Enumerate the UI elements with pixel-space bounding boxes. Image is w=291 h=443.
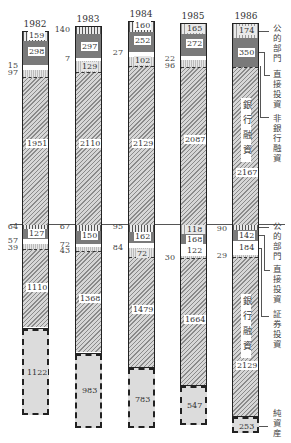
- value-public-lower: 95: [103, 222, 123, 231]
- value-bank-lower: 1664: [184, 315, 206, 324]
- value-net-assets: 983: [81, 386, 98, 395]
- value-direct-lower: 142: [238, 231, 255, 240]
- value-direct-upper: 350: [238, 48, 255, 57]
- value-public-lower: 67: [50, 222, 70, 231]
- bank-loans-inner-label-upper: 銀行融資: [241, 98, 251, 162]
- value-public-lower: 118: [186, 225, 203, 234]
- year-label-1986: 1986: [231, 11, 261, 21]
- bar-1983-upper: [75, 26, 102, 354]
- value-nonbank-light: 129: [81, 62, 98, 71]
- legend-direct-investment-upper: 直接投資: [270, 70, 282, 110]
- value-public-upper: 174: [238, 26, 255, 35]
- seg-bank-upper: [76, 72, 101, 225]
- leader-portfolio-v: [261, 248, 262, 316]
- legend-direct-investment-lower: 直接投資: [270, 265, 282, 305]
- value-bank-lower: 2129: [236, 361, 258, 370]
- value-public-upper: 140: [50, 25, 70, 34]
- value-nonbank-light: 97: [0, 68, 18, 77]
- value-portfolio-light: 29: [207, 251, 227, 260]
- legend-public-sector-lower: 公的部門: [270, 222, 282, 262]
- seg-nonbank-light-upper: [181, 60, 206, 67]
- value-direct-upper: 272: [186, 39, 203, 48]
- value-nonbank-light: 102: [134, 56, 151, 65]
- seg-public-upper: [76, 27, 101, 34]
- value-net-assets: 783: [134, 395, 151, 404]
- seg-nonbank-light-upper: [23, 70, 48, 77]
- value-direct-lower: 127: [28, 229, 45, 238]
- value-public-upper: 160: [134, 21, 151, 30]
- seg-bank-upper: [181, 67, 206, 225]
- leader-portfolio-h: [261, 316, 269, 317]
- leader-direct-lower-v: [264, 235, 265, 270]
- value-bank-upper: 2110: [79, 139, 101, 148]
- bar-1984-upper: [128, 21, 155, 368]
- value-bank-upper: 2167: [236, 168, 258, 177]
- value-direct-lower: 168: [186, 235, 203, 244]
- seg-public-lower: [129, 225, 154, 232]
- value-portfolio-light: 39: [0, 243, 18, 252]
- bar-1985-upper: [180, 23, 207, 386]
- value-net-assets: 547: [186, 401, 203, 410]
- value-bank-lower: 1368: [79, 294, 101, 303]
- value-bank-lower: 1479: [132, 305, 154, 314]
- legend-non-bank-loans: 非銀行融資: [270, 114, 282, 164]
- value-public-lower: 90: [207, 224, 227, 233]
- value-bank-lower: 1110: [26, 283, 48, 292]
- value-nonbank-white: 27: [103, 48, 123, 57]
- year-label-1984: 1984: [126, 9, 156, 19]
- leader-direct-upper-v: [264, 52, 265, 75]
- leader-nonbank-v: [260, 66, 261, 117]
- value-direct-upper: 297: [81, 42, 98, 51]
- legend-net-assets: 純資産: [270, 409, 282, 439]
- value-portfolio-white: 84: [103, 243, 123, 252]
- value-portfolio-light: 30: [155, 253, 175, 262]
- value-direct-lower: 162: [134, 232, 151, 241]
- value-direct-lower: 150: [81, 231, 98, 240]
- value-direct-upper: 298: [28, 47, 45, 56]
- value-bank-upper: 2087: [184, 135, 206, 144]
- year-label-1982: 1982: [20, 19, 50, 29]
- value-net-assets: 253: [238, 422, 255, 431]
- value-nonbank-white: 7: [50, 54, 70, 63]
- value-direct-upper: 252: [134, 36, 151, 45]
- leader-public-upper: [259, 31, 269, 32]
- value-public-lower: 64: [0, 222, 18, 231]
- value-bank-upper: 2129: [132, 139, 154, 148]
- leader-public-lower: [259, 227, 269, 228]
- value-net-assets: 1122: [26, 368, 48, 377]
- value-portfolio-light: 72: [136, 249, 148, 258]
- leader-net-assets: [259, 426, 268, 427]
- legend-portfolio-investment: 証券投資: [270, 310, 282, 350]
- seg-bank-upper: [23, 77, 48, 225]
- value-portfolio-white: 184: [238, 243, 255, 252]
- value-nonbank-light: 96: [155, 61, 175, 70]
- value-portfolio-light: 43: [50, 246, 70, 255]
- value-portfolio-white: 122: [186, 246, 203, 255]
- year-label-1985: 1985: [178, 11, 208, 21]
- legend-public-sector-upper: 公的部門: [270, 24, 282, 64]
- year-label-1983: 1983: [73, 14, 103, 24]
- leader-nonbank-h: [260, 117, 269, 118]
- value-bank-upper: 1951: [26, 139, 48, 148]
- bank-loans-inner-label-lower: 銀行融資: [241, 294, 251, 358]
- value-public-upper: 165: [186, 24, 203, 33]
- value-public-upper: 159: [28, 31, 45, 40]
